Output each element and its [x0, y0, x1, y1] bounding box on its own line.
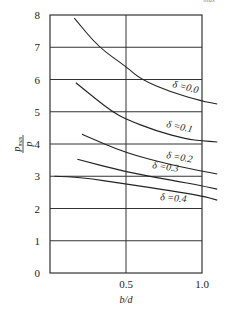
y-label-numerator: pmax [11, 136, 23, 152]
y-tick-label: 0 [35, 267, 41, 279]
line-chart: δ =0.0δ =0.1δ =0.2δ =0.3δ =0.4 012345678… [0, 0, 227, 312]
y-tick-label: 7 [35, 41, 41, 53]
gridlines [50, 15, 202, 273]
y-tick-label: 6 [35, 74, 41, 86]
series-line [77, 159, 217, 189]
x-axis-label: b/d [120, 294, 134, 305]
series-label: δ =0.1 [166, 118, 194, 134]
series-label: δ =0.4 [160, 191, 187, 204]
y-tick-label: 1 [35, 235, 41, 247]
series-label: δ =0.3 [152, 159, 180, 174]
y-axis-label: pmax p [11, 135, 34, 153]
series-line [55, 176, 218, 200]
y-tick-label: 5 [35, 106, 41, 118]
y-tick-label: 4 [35, 138, 41, 150]
y-tick-label: 8 [35, 9, 41, 21]
tick-labels: 0123456780.51.0 [35, 9, 210, 290]
x-tick-label: 1.0 [195, 278, 209, 290]
series-labels: δ =0.0δ =0.1δ =0.2δ =0.3δ =0.4 [152, 78, 200, 204]
data-series [55, 18, 218, 200]
y-tick-label: 2 [35, 203, 41, 215]
y-tick-label: 3 [35, 170, 41, 182]
y-label-denominator: p [23, 142, 34, 148]
x-tick-label: 0.5 [119, 278, 133, 290]
